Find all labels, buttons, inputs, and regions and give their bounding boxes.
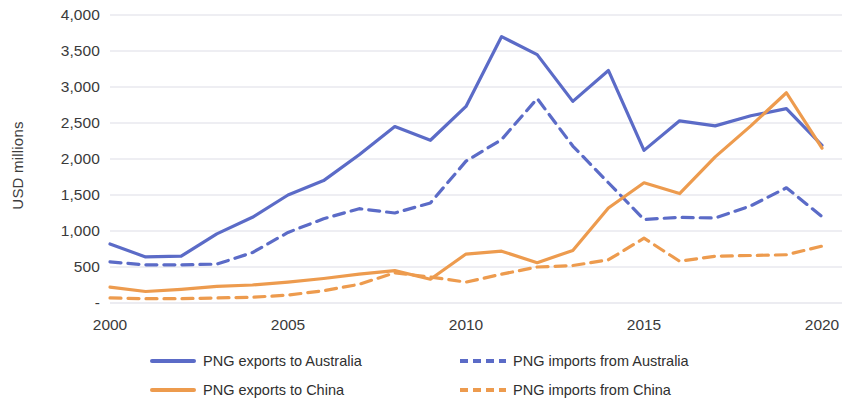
gridlines xyxy=(110,15,842,303)
legend-swatch-icon xyxy=(460,388,506,392)
legend-swatch-icon xyxy=(150,359,196,363)
legend-item-label: PNG imports from Australia xyxy=(513,353,689,369)
legend-item-label: PNG exports to Australia xyxy=(203,353,362,369)
series-line xyxy=(110,99,822,265)
line-chart-figure: USD millions -5001,0001,5002,0002,5003,0… xyxy=(0,0,848,405)
legend-item-label: PNG imports from China xyxy=(513,382,671,398)
series-line xyxy=(110,37,822,257)
legend-item[interactable]: PNG exports to China xyxy=(150,382,460,398)
legend-swatch-icon xyxy=(150,388,196,392)
chart-legend: PNG exports to AustraliaPNG imports from… xyxy=(150,346,810,404)
plot-area xyxy=(0,0,848,405)
legend-item-label: PNG exports to China xyxy=(203,382,344,398)
legend-swatch-icon xyxy=(460,359,506,363)
legend-item[interactable]: PNG imports from Australia xyxy=(460,353,790,369)
legend-item[interactable]: PNG imports from China xyxy=(460,382,790,398)
legend-item[interactable]: PNG exports to Australia xyxy=(150,353,460,369)
data-series-layer xyxy=(110,37,822,299)
series-line xyxy=(110,238,822,298)
